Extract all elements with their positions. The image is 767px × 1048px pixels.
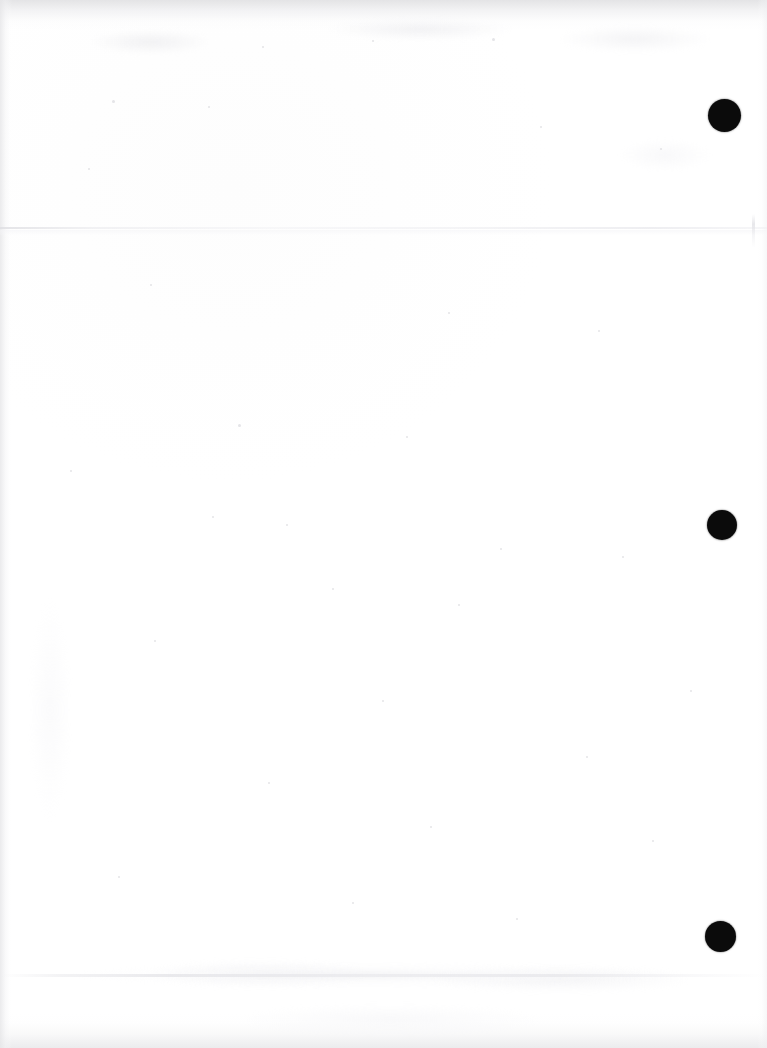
scan-edge-shadow-left bbox=[0, 0, 12, 1048]
scan-smudge-band-lower bbox=[70, 962, 670, 988]
scan-edge-shadow-bottom bbox=[0, 1014, 767, 1048]
scan-edge-shadow-right bbox=[757, 0, 767, 1048]
scanned-document-page bbox=[0, 0, 767, 1048]
page-body-text bbox=[60, 260, 680, 940]
punch-mark-top bbox=[708, 99, 741, 132]
edge-scratch-mark bbox=[752, 214, 755, 248]
punch-mark-bottom bbox=[705, 921, 736, 952]
scan-edge-shadow-top bbox=[0, 0, 767, 30]
punch-mark-middle bbox=[707, 510, 737, 540]
